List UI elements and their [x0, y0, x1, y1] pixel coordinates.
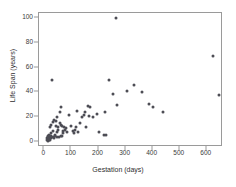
- plot-frame: [38, 12, 222, 146]
- data-point: [112, 92, 115, 95]
- data-point: [58, 111, 61, 114]
- data-point: [89, 106, 92, 109]
- y-axis-tick-label: 80: [26, 39, 33, 46]
- data-point: [67, 113, 70, 116]
- data-point: [54, 119, 57, 122]
- x-axis-tick-mark: [124, 146, 125, 150]
- data-point: [92, 116, 95, 119]
- data-points-layer: [39, 13, 221, 145]
- y-axis-tick-label: 60: [26, 63, 33, 70]
- data-point: [49, 123, 52, 126]
- data-point: [51, 129, 54, 132]
- x-axis-tick-label: 0: [42, 150, 46, 157]
- data-point: [147, 102, 150, 105]
- data-point: [108, 79, 111, 82]
- y-axis-tick-mark: [34, 141, 38, 142]
- data-point: [115, 16, 118, 19]
- y-axis-tick-mark: [34, 116, 38, 117]
- y-axis-tick-label: 0: [29, 138, 33, 145]
- x-axis-tick-mark: [70, 146, 71, 150]
- y-axis-tick-mark: [34, 41, 38, 42]
- y-axis-tick-label: 20: [26, 113, 33, 120]
- data-point: [57, 128, 60, 131]
- y-axis-tick-mark: [34, 91, 38, 92]
- data-point: [104, 111, 107, 114]
- data-point: [50, 79, 53, 82]
- x-axis-tick-mark: [97, 146, 98, 150]
- x-axis-tick-mark: [178, 146, 179, 150]
- scatter-plot-screenshot: 020406080100 0100200300400500600 Gestati…: [0, 0, 236, 187]
- data-point: [105, 133, 108, 136]
- data-point: [116, 103, 119, 106]
- x-axis-tick-mark: [151, 146, 152, 150]
- x-axis-tick-label: 100: [65, 150, 76, 157]
- data-point: [73, 132, 76, 135]
- x-axis-title: Gestation (days): [0, 166, 236, 173]
- x-axis-tick-label: 600: [200, 150, 211, 157]
- x-axis-tick-label: 500: [173, 150, 184, 157]
- data-point: [96, 112, 99, 115]
- y-axis-tick-mark: [34, 16, 38, 17]
- data-point: [78, 122, 81, 125]
- data-point: [77, 131, 80, 134]
- data-point: [65, 127, 68, 130]
- y-axis-tick-mark: [34, 66, 38, 67]
- data-point: [162, 111, 165, 114]
- x-axis-tick-label: 200: [92, 150, 103, 157]
- data-point: [212, 55, 215, 58]
- data-point: [217, 93, 220, 96]
- y-axis-tick-label: 40: [26, 88, 33, 95]
- data-point: [60, 106, 63, 109]
- y-axis-tick-label: 100: [22, 14, 33, 21]
- data-point: [56, 116, 59, 119]
- data-point: [75, 110, 78, 113]
- data-point: [125, 90, 128, 93]
- data-point: [66, 131, 69, 134]
- x-axis-tick-label: 400: [146, 150, 157, 157]
- data-point: [74, 126, 77, 129]
- y-axis-tick-labels: 020406080100: [0, 0, 33, 187]
- data-point: [97, 131, 100, 134]
- data-point: [132, 83, 135, 86]
- x-axis-tick-mark: [43, 146, 44, 150]
- data-point: [140, 91, 143, 94]
- y-axis-title: Life Span (years): [9, 16, 16, 136]
- x-axis-tick-mark: [205, 146, 206, 150]
- data-point: [70, 124, 73, 127]
- data-point: [84, 111, 87, 114]
- x-axis-tick-label: 300: [119, 150, 130, 157]
- data-point: [151, 106, 154, 109]
- data-point: [84, 126, 87, 129]
- data-point: [88, 114, 91, 117]
